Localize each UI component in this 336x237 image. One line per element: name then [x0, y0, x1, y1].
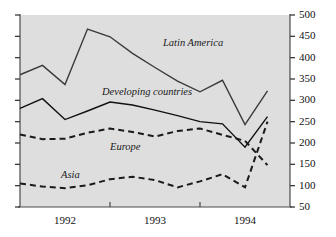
series-line-europe — [20, 128, 268, 165]
chart-figure: 50045040035030025020015010050 1992199319… — [0, 0, 336, 237]
series-label-asia: Asia — [61, 170, 80, 181]
chart-canvas — [0, 0, 336, 237]
series-line-developing-countries — [20, 99, 268, 148]
y-tick-label: 200 — [299, 137, 316, 148]
y-tick-label: 350 — [299, 73, 316, 84]
y-tick-label: 150 — [299, 158, 316, 169]
y-tick-label: 450 — [299, 30, 316, 41]
y-tick-label: 300 — [299, 94, 316, 105]
x-tick-label: 1992 — [40, 215, 90, 226]
series-line-latin-america — [20, 29, 268, 125]
series-label-europe: Europe — [110, 142, 141, 153]
y-tick-label: 400 — [299, 52, 316, 63]
y-tick-label: 500 — [299, 9, 316, 20]
x-tick-label: 1993 — [130, 215, 180, 226]
series-label-latin-america: Latin America — [163, 38, 223, 49]
x-tick-label: 1994 — [220, 215, 270, 226]
y-tick-label: 250 — [299, 116, 316, 127]
series-label-developing-countries: Developing countries — [102, 87, 192, 98]
series-layer — [20, 29, 268, 188]
y-tick-label: 100 — [299, 180, 316, 191]
y-tick-label: 50 — [299, 201, 310, 212]
